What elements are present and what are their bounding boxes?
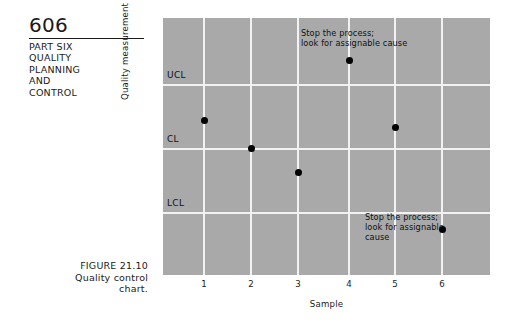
annotation-lower: Stop the process; look for assignable ca… (365, 212, 447, 243)
plot-area: UCL CL LCL Stop the process; look for as… (163, 18, 490, 275)
x-tick-label: 3 (288, 279, 308, 289)
annotation-upper-line: Stop the process; (301, 28, 451, 38)
data-point (439, 226, 446, 233)
x-axis-label: Sample (163, 299, 490, 309)
annotation-lower-line: Stop the process; (365, 212, 447, 222)
x-tick-label: 4 (339, 279, 359, 289)
x-tick-label: 6 (432, 279, 452, 289)
annotation-upper-line: look for assignable cause (301, 38, 451, 48)
lcl-label: LCL (167, 198, 184, 208)
control-limit-line-ucl (163, 84, 490, 86)
control-limit-line-cl (163, 148, 490, 150)
cl-label: CL (167, 134, 179, 144)
gridline-vertical-1 (203, 18, 205, 275)
x-axis-ticks: 1 2 3 4 5 6 (163, 279, 490, 293)
annotation-lower-line: look for assignable (365, 222, 447, 232)
quality-control-chart: Quality measurement UCL CL LCL Stop the … (0, 0, 523, 322)
x-tick-label: 5 (385, 279, 405, 289)
annotation-lower-line: cause (365, 232, 447, 242)
ucl-label: UCL (167, 70, 186, 80)
data-point (392, 124, 399, 131)
x-tick-label: 1 (194, 279, 214, 289)
data-point (201, 117, 208, 124)
data-point (346, 57, 353, 64)
annotation-upper: Stop the process; look for assignable ca… (301, 28, 451, 48)
gridline-vertical-3 (297, 18, 299, 275)
data-point (295, 169, 302, 176)
x-tick-label: 2 (241, 279, 261, 289)
y-axis-label: Quality measurement (120, 3, 130, 100)
data-point (248, 145, 255, 152)
